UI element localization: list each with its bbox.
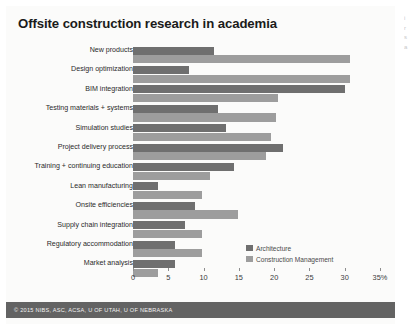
category-label: Lean manufacturing [0,182,133,191]
bar-construction-management [133,249,202,257]
bar-construction-management [133,133,271,141]
page-edge-text: irsa [404,14,419,52]
bar-architecture [133,182,158,190]
edge-text-line: s [404,33,419,43]
legend-item: Architecture [246,243,333,253]
bar-architecture [133,66,189,74]
legend-swatch [246,256,253,263]
axis-tick-label: 30 [341,273,349,282]
axis-tick [133,268,134,271]
copyright-text: © 2015 NIBS, ASC, ACSA, U OF UTAH, U OF … [14,307,172,313]
bar-track [133,143,393,162]
bar-group: BIM integration [0,85,400,104]
axis-tick-label: 0 [131,273,135,282]
bar-construction-management [133,75,350,83]
legend-label: Construction Management [256,256,333,263]
axis-tick [309,268,310,271]
bar-construction-management [133,172,210,180]
bar-architecture [133,241,175,249]
category-label: Market analysis [0,259,133,268]
bar-architecture [133,221,185,229]
axis-tick [239,268,240,271]
category-label: New products [0,46,133,55]
category-label: Supply chain integration [0,221,133,230]
bar-architecture [133,163,234,171]
axis-tick-label: 5 [166,273,170,282]
bar-track [133,221,393,240]
bar-group: Design optimization [0,65,400,84]
bar-construction-management [133,230,202,238]
axis-tick [380,268,381,271]
category-label: Regulatory accommodation [0,240,133,249]
bar-group: Supply chain integration [0,221,400,240]
bar-architecture [133,105,218,113]
plot-area: New productsDesign optimizationBIM integ… [0,46,400,268]
axis-tick [345,268,346,271]
bar-track [133,65,393,84]
bar-construction-management [133,113,276,121]
edge-text-line: r [404,24,419,34]
bar-track [133,104,393,123]
bar-architecture [133,202,195,210]
bar-group: Simulation studies [0,124,400,143]
bar-group: New products [0,46,400,65]
axis-tick-label: 15 [235,273,243,282]
chart-legend: ArchitectureConstruction Management [246,243,333,265]
bar-architecture [133,47,214,55]
bar-group: Onsite efficiencies [0,201,400,220]
category-label: Training + continuing education [0,162,133,171]
bar-group: Training + continuing education [0,162,400,181]
category-label: Testing materials + systems [0,104,133,113]
legend-swatch [246,245,253,252]
axis-tick-label: 35% [373,273,388,282]
axis-tick [204,268,205,271]
bar-construction-management [133,210,238,218]
x-axis: 05101520253035% [0,268,400,290]
axis-tick [274,268,275,271]
page-title: Offsite construction research in academi… [18,16,277,31]
bar-construction-management [133,94,278,102]
bar-group: Project delivery process [0,143,400,162]
bar-track [133,201,393,220]
bar-group: Testing materials + systems [0,104,400,123]
bar-group: Lean manufacturing [0,182,400,201]
bar-construction-management [133,152,266,160]
bar-track [133,182,393,201]
footer-bar: © 2015 NIBS, ASC, ACSA, U OF UTAH, U OF … [6,302,395,318]
bar-track [133,124,393,143]
bar-track [133,85,393,104]
bar-architecture [133,260,175,268]
bar-architecture [133,144,283,152]
category-label: Simulation studies [0,124,133,133]
category-label: Project delivery process [0,143,133,152]
axis-tick [168,268,169,271]
axis-tick-label: 25 [305,273,313,282]
axis-tick-label: 20 [270,273,278,282]
bar-group: Regulatory accommodation [0,240,400,259]
legend-item: Construction Management [246,254,333,264]
bar-architecture [133,85,345,93]
category-label: BIM integration [0,85,133,94]
bar-track [133,162,393,181]
bar-architecture [133,124,226,132]
edge-text-line: i [404,14,419,24]
bar-construction-management [133,55,350,63]
bar-rows: New productsDesign optimizationBIM integ… [0,46,400,279]
category-label: Onsite efficiencies [0,201,133,210]
bar-track [133,46,393,65]
bar-construction-management [133,191,202,199]
chart-figure: Offsite construction research in academi… [0,0,419,330]
edge-text-line: a [404,43,419,53]
axis-tick-label: 10 [199,273,207,282]
legend-label: Architecture [256,245,291,252]
category-label: Design optimization [0,65,133,74]
